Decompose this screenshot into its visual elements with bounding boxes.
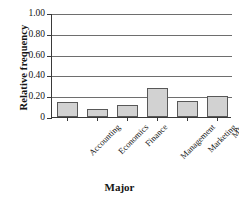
bar-slot [82, 13, 112, 117]
y-axis-tick-label: 0.40 [16, 72, 45, 82]
y-axis-tick-label: 1.00 [16, 9, 45, 19]
x-axis-category-label: Accounting [87, 122, 122, 157]
bar [117, 105, 138, 117]
x-axis-tick-mark [217, 117, 218, 121]
y-axis-tick-label: 0 [16, 113, 45, 123]
y-axis-tick-mark [47, 56, 52, 57]
y-axis-tick-label: 0.80 [16, 30, 45, 40]
bar-slot [112, 13, 142, 117]
bar-slot [142, 13, 172, 117]
bar-slot [202, 13, 232, 117]
bar [177, 101, 198, 117]
x-axis-tick-mark [187, 117, 188, 121]
bar-series [52, 13, 232, 117]
y-axis-tick-mark [47, 14, 52, 15]
y-axis-tick-mark [47, 76, 52, 77]
y-axis-tick-label: 0.20 [16, 92, 45, 102]
bar-slot [52, 13, 82, 117]
bar-slot [172, 13, 202, 117]
y-axis-tick-label: 0.60 [16, 51, 45, 61]
x-axis-tick-mark [67, 117, 68, 121]
y-axis-tick-mark [47, 118, 52, 119]
y-axis-tick-mark [47, 35, 52, 36]
x-axis-title: Major [0, 181, 239, 193]
bar [57, 102, 78, 117]
x-axis-category-labels: AccountingEconomicsFinanceManagementMark… [51, 122, 231, 174]
y-axis-tick-mark [47, 97, 52, 98]
plot-area [51, 14, 231, 118]
relative-frequency-bar-chart: Relative frequency 1.000.800.600.400.200… [0, 0, 239, 205]
x-axis-tick-mark [127, 117, 128, 121]
bar [87, 109, 108, 117]
x-axis-tick-mark [97, 117, 98, 121]
bar [207, 96, 228, 117]
y-axis-tick-labels: 1.000.800.600.400.200 [16, 0, 45, 205]
bar [147, 88, 168, 117]
x-axis-tick-mark [157, 117, 158, 121]
